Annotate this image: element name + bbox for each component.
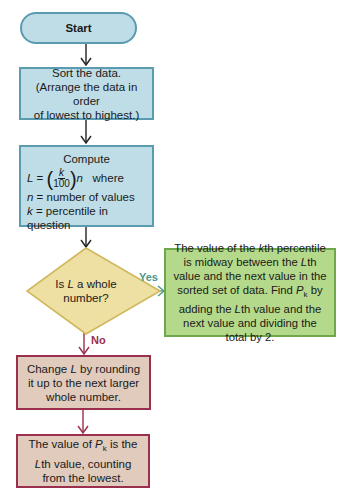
compute-heading: Compute: [21, 152, 152, 166]
sort-line-3: of lowest to highest.): [34, 108, 139, 122]
formula-eq: =: [37, 172, 44, 184]
paren-open: (: [47, 168, 54, 190]
round-up-node: Change L by rounding it up to the next l…: [16, 355, 151, 410]
yes-label: Yes: [139, 271, 158, 283]
paren-close: ): [70, 168, 77, 190]
sort-line-2: (Arrange the data in order: [21, 80, 152, 108]
compute-formula: L = (k100)n where: [21, 166, 152, 190]
sort-line-1: Sort the data.: [52, 66, 121, 80]
yes-result-node: The value of the kth percentile is midwa…: [164, 248, 336, 337]
formula-fraction: k100: [53, 168, 70, 189]
formula-n: n: [77, 172, 83, 184]
no-result-node: The value of Pk is the Lth value, counti…: [16, 434, 150, 488]
def-n: n = number of values: [21, 190, 152, 204]
no-label: No: [91, 334, 106, 346]
def-k: k = percentile in question: [21, 204, 152, 232]
formula-L: L: [27, 172, 33, 184]
decision-text: Is L a whole number?: [40, 274, 132, 308]
start-label: Start: [65, 21, 91, 35]
start-node: Start: [20, 12, 137, 44]
formula-where: where: [93, 172, 124, 184]
sort-node: Sort the data. (Arrange the data in orde…: [19, 67, 154, 120]
compute-node: Compute L = (k100)n where n = number of …: [19, 145, 154, 227]
